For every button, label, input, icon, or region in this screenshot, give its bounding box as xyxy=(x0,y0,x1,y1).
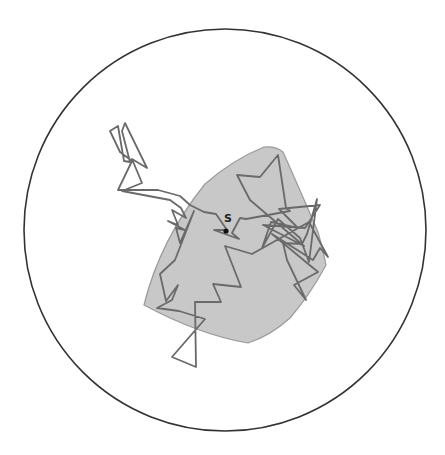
start-point-marker xyxy=(223,228,228,233)
start-label: S xyxy=(224,212,232,225)
shaded-region xyxy=(144,147,326,343)
diagram-canvas: S xyxy=(0,0,445,455)
